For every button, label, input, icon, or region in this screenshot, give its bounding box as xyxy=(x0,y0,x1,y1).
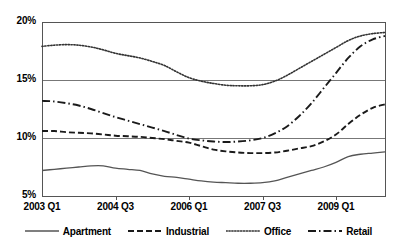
yaxis-tick-label: 20% xyxy=(0,15,36,26)
legend-swatch-solid-icon xyxy=(25,226,59,236)
series-line-apartment xyxy=(42,152,385,183)
legend-item-industrial[interactable]: Industrial xyxy=(128,226,209,237)
legend-item-apartment[interactable]: Apartment xyxy=(25,226,111,237)
series-line-industrial xyxy=(42,104,385,153)
xaxis-tick-label: 2007 Q3 xyxy=(223,201,303,212)
legend-swatch-dashed-icon xyxy=(128,226,162,236)
xaxis-tick-label: 2003 Q1 xyxy=(2,201,82,212)
yaxis-tick-label: 5% xyxy=(0,189,36,200)
series-line-office xyxy=(42,32,385,85)
xaxis-tick-label: 2006 Q1 xyxy=(149,201,229,212)
chart-legend: ApartmentIndustrialOfficeRetail xyxy=(0,221,397,241)
legend-swatch-dashdot-icon xyxy=(308,226,342,236)
legend-label: Retail xyxy=(346,226,372,237)
legend-item-office[interactable]: Office xyxy=(226,226,291,237)
legend-item-retail[interactable]: Retail xyxy=(308,226,372,237)
xaxis-tick-label: 2004 Q3 xyxy=(76,201,156,212)
yaxis-tick-label: 10% xyxy=(0,131,36,142)
vacancy-rate-line-chart: ApartmentIndustrialOfficeRetail 20%15%10… xyxy=(0,0,397,245)
series-line-retail xyxy=(42,36,385,142)
legend-swatch-dotted-icon xyxy=(226,226,260,236)
legend-label: Apartment xyxy=(63,226,111,237)
xaxis-tick-label: 2009 Q1 xyxy=(296,201,376,212)
legend-label: Office xyxy=(264,226,291,237)
yaxis-tick-label: 15% xyxy=(0,73,36,84)
legend-label: Industrial xyxy=(166,226,209,237)
